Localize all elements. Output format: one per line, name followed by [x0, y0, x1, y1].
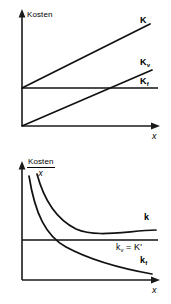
top-x-axis-label: x [152, 132, 157, 141]
label-curve-fixed-costs-sub: f [147, 81, 149, 87]
label-curve-fixed-costs: Kf [140, 77, 149, 86]
total-costs-chart: Kosten x K Kv Kf [0, 0, 171, 152]
label-curve-total-costs: K [140, 16, 147, 25]
curve-unit-total-costs [37, 174, 156, 234]
label-curve-unit-total-costs: k [144, 213, 149, 222]
cost-curves-figure: Kosten x K Kv Kf Kosten x [0, 0, 171, 304]
top-y-axis-label: Kosten [27, 11, 53, 19]
bottom-x-axis-label: x [152, 286, 157, 295]
label-curve-unit-fixed-costs: kf [140, 256, 147, 265]
label-unit-variable-suffix: = K' [123, 242, 141, 252]
label-curve-variable-costs-sub: v [147, 62, 150, 68]
x-axis-arrowhead [151, 123, 160, 130]
label-unit-variable-sub: v [121, 247, 124, 253]
label-curve-variable-costs: Kv [140, 58, 150, 67]
fraction-denominator: x [27, 168, 55, 178]
label-curve-unit-variable-costs: kv = K' [116, 243, 142, 252]
x-axis-arrowhead [151, 277, 160, 284]
label-curve-fixed-costs-base: K [140, 76, 147, 86]
label-unit-variable-base: k [116, 242, 120, 252]
y-axis-arrowhead [19, 9, 26, 18]
unit-costs-plot [0, 152, 171, 304]
curve-unit-fixed-costs [29, 176, 152, 274]
bottom-y-axis-label: Kosten x [27, 158, 55, 178]
unit-cost-fraction: Kosten x [27, 158, 55, 178]
y-axis-arrowhead [19, 161, 26, 170]
fraction-numerator: Kosten [27, 158, 55, 168]
unit-costs-chart: Kosten x x k kv = K' kf [0, 152, 171, 304]
label-curve-variable-costs-base: K [140, 57, 147, 67]
